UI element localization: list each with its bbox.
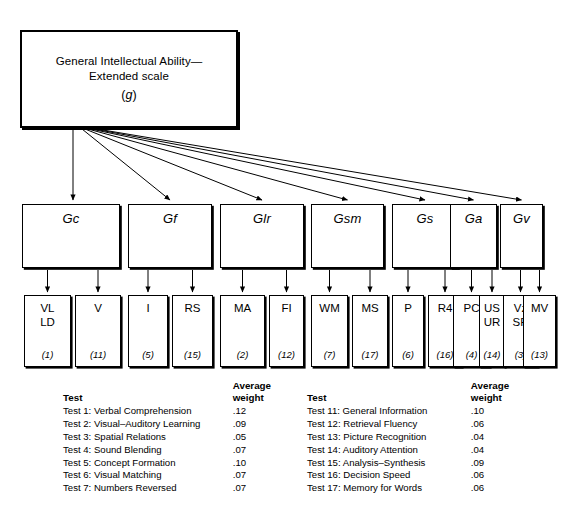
factor-box-gc: Gc (22, 204, 120, 268)
factor-label: Ga (465, 211, 483, 226)
legend-test-name: Test 13: Picture Recognition (307, 430, 457, 443)
test-code: I (146, 301, 149, 315)
test-number: (6) (393, 349, 423, 360)
legend-header-weight-line1: Average (471, 380, 522, 392)
legend-header-test: Test (63, 380, 219, 404)
legend-row: Test 1: Verbal Comprehension.12 (63, 404, 278, 417)
test-code: WM (319, 301, 339, 315)
g-to-factor-arrows (73, 128, 522, 200)
legend-average-weight: .12 (219, 404, 278, 417)
test-box-wm: WM(7) (311, 295, 348, 367)
legend-average-weight: .07 (219, 443, 278, 456)
arrow-g-to-gf (82, 129, 170, 200)
legend-average-weight: .09 (457, 455, 522, 468)
factor-to-test-arrows (48, 270, 540, 292)
legend-test-name: Test 6: Visual Matching (63, 468, 219, 481)
test-code: MA (234, 301, 251, 315)
test-box-rs: RS(15) (172, 295, 213, 367)
factor-label: Gc (62, 211, 79, 226)
legend-average-weight: .06 (457, 468, 522, 481)
legend-header-weight-line1: Average (233, 380, 278, 392)
test-number: (5) (129, 349, 167, 360)
legend-row: Test 11: General Information.10 (307, 404, 522, 417)
legend-test-name: Test 17: Memory for Words (307, 481, 457, 494)
test-code: FI (281, 301, 291, 315)
legend-average-weight: .04 (457, 430, 522, 443)
arrow-g-to-glr (85, 129, 262, 200)
factor-label: Gs (416, 211, 433, 226)
legend-row: Test 2: Visual–Auditory Learning.09 (63, 417, 278, 430)
legend-average-weight: .07 (219, 468, 278, 481)
legend-header-weight: Average weight (219, 380, 278, 404)
test-box-p: P(6) (392, 295, 424, 367)
arrow-g-to-ga (94, 129, 474, 200)
test-box-ms: MS(17) (352, 295, 388, 367)
legend-header-weight-line2: weight (471, 392, 522, 404)
legend-test-name: Test 7: Numbers Reversed (63, 481, 219, 494)
legend-test-name: Test 15: Analysis–Synthesis (307, 455, 457, 468)
test-box-vl-ld: VL LD(1) (24, 295, 71, 367)
test-code: P (404, 301, 412, 315)
legend-row: Test 6: Visual Matching.07 (63, 468, 278, 481)
test-box-fi: FI(12) (269, 295, 304, 367)
legend-test-name: Test 3: Spatial Relations (63, 430, 219, 443)
legend-average-weight: .05 (219, 430, 278, 443)
legend-average-weight: .07 (219, 481, 278, 494)
legend-row: Test 15: Analysis–Synthesis.09 (307, 455, 522, 468)
test-code: V (94, 301, 102, 315)
test-number: (11) (76, 349, 120, 360)
test-box-mv: MV(13) (523, 295, 556, 367)
factor-label: Glr (253, 211, 271, 226)
factor-box-gsm: Gsm (311, 204, 384, 268)
arrow-g-to-gsm (88, 129, 348, 200)
legend-test-name: Test 14: Auditory Attention (307, 443, 457, 456)
general-ability-box: General Intellectual Ability— Extended s… (20, 30, 238, 128)
test-number: (1) (25, 349, 70, 360)
legend-left-table: Test Average weight Test 1: Verbal Compr… (63, 380, 278, 494)
legend-header-row: Test Average weight (307, 380, 522, 404)
test-number: (2) (221, 349, 264, 360)
factor-label: Gf (163, 211, 177, 226)
test-number: (13) (524, 349, 555, 360)
legend-average-weight: .10 (219, 455, 278, 468)
legend-right: Test Average weight Test 11: General Inf… (307, 380, 522, 494)
test-number: (15) (173, 349, 212, 360)
legend-row: Test 14: Auditory Attention.04 (307, 443, 522, 456)
factor-label: Gv (513, 211, 530, 226)
legend-row: Test 12: Retrieval Fluency.06 (307, 417, 522, 430)
legend-test-name: Test 5: Concept Formation (63, 455, 219, 468)
legend-row: Test 4: Sound Blending.07 (63, 443, 278, 456)
legend-header-test: Test (307, 380, 457, 404)
factor-label: Gsm (333, 211, 361, 226)
legend-average-weight: .04 (457, 443, 522, 456)
legend-row: Test 13: Picture Recognition.04 (307, 430, 522, 443)
legend-average-weight: .06 (457, 417, 522, 430)
legend-test-name: Test 16: Decision Speed (307, 468, 457, 481)
test-number: (12) (270, 349, 303, 360)
general-ability-line2: Extended scale (89, 69, 169, 84)
test-box-ma: MA(2) (220, 295, 265, 367)
legend-test-name: Test 12: Retrieval Fluency (307, 417, 457, 430)
legend-left: Test Average weight Test 1: Verbal Compr… (63, 380, 278, 494)
figure-canvas: General Intellectual Ability— Extended s… (0, 0, 576, 521)
test-box-us-ur: US UR(14) (479, 295, 505, 367)
legend-average-weight: .06 (457, 481, 522, 494)
general-ability-line1: General Intellectual Ability— (56, 54, 203, 69)
legend-header-weight: Average weight (457, 380, 522, 404)
test-code: RS (185, 301, 201, 315)
test-number: (7) (312, 349, 347, 360)
test-box-i: I(5) (128, 295, 168, 367)
test-code: PC (464, 301, 480, 315)
legend-test-name: Test 4: Sound Blending (63, 443, 219, 456)
legend-test-name: Test 11: General Information (307, 404, 457, 417)
test-box-v: V(11) (75, 295, 121, 367)
test-code: MS (361, 301, 378, 315)
arrow-g-to-gs (91, 129, 425, 200)
legend-header-weight-line2: weight (233, 392, 278, 404)
legend-header-row: Test Average weight (63, 380, 278, 404)
legend-average-weight: .10 (457, 404, 522, 417)
legend-right-table: Test Average weight Test 11: General Inf… (307, 380, 522, 494)
factor-box-gs: Gs (392, 204, 458, 268)
factor-box-gf: Gf (128, 204, 212, 268)
legend-row: Test 17: Memory for Words.06 (307, 481, 522, 494)
